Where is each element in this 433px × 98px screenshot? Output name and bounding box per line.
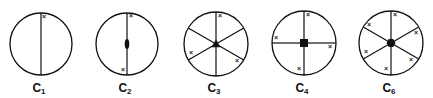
mirror-plane-line (216, 44, 244, 60)
mirror-plane-line (363, 27, 391, 43)
diagram-c6: ××××××C6 (359, 11, 423, 96)
diagram-label-subscript: 4 (304, 87, 309, 96)
x-mark-icon: × (189, 49, 193, 56)
x-mark-icon: × (367, 21, 371, 28)
x-mark-icon: × (409, 56, 413, 63)
diagram-label-subscript: 2 (127, 87, 132, 96)
x-mark-icon: × (121, 66, 125, 73)
x-mark-icon: × (235, 57, 239, 64)
symmetry-diagrams-figure: ×C1××C2×××C3××××C4××××××C6 (0, 0, 433, 98)
x-mark-icon: × (218, 12, 222, 19)
x-mark-icon: × (393, 11, 397, 18)
diagram-label-subscript: 3 (216, 87, 221, 96)
x-mark-icon: × (414, 29, 418, 36)
diagram-label-subscript: 1 (41, 87, 46, 96)
diagram-c4: ××××C4 (272, 11, 336, 96)
diagram-c3: ×××C3 (184, 12, 248, 96)
x-mark-icon: × (129, 12, 133, 19)
diagram-label: C1 (32, 81, 46, 96)
x-mark-icon: × (364, 48, 368, 55)
threefold-axis-marker (212, 40, 221, 48)
x-mark-icon: × (306, 11, 310, 18)
diagram-c1: ×C1 (10, 13, 72, 96)
diagram-label: C3 (207, 81, 221, 96)
diagram-label: C2 (118, 81, 132, 96)
x-mark-icon: × (328, 43, 332, 50)
x-mark-icon: × (42, 13, 46, 20)
diagram-c2: ××C2 (96, 12, 158, 96)
mirror-plane-line (188, 28, 216, 44)
sixfold-axis-marker (387, 39, 396, 47)
diagram-label: C6 (382, 81, 396, 96)
diagram-label: C4 (295, 81, 309, 96)
x-mark-icon: × (274, 34, 278, 41)
mirror-plane-line (391, 43, 419, 59)
diagram-label-subscript: 6 (391, 87, 396, 96)
x-mark-icon: × (384, 65, 388, 72)
twofold-axis-marker (125, 39, 130, 49)
fourfold-axis-marker (300, 39, 308, 47)
mirror-plane-line (216, 28, 244, 44)
x-mark-icon: × (297, 65, 301, 72)
